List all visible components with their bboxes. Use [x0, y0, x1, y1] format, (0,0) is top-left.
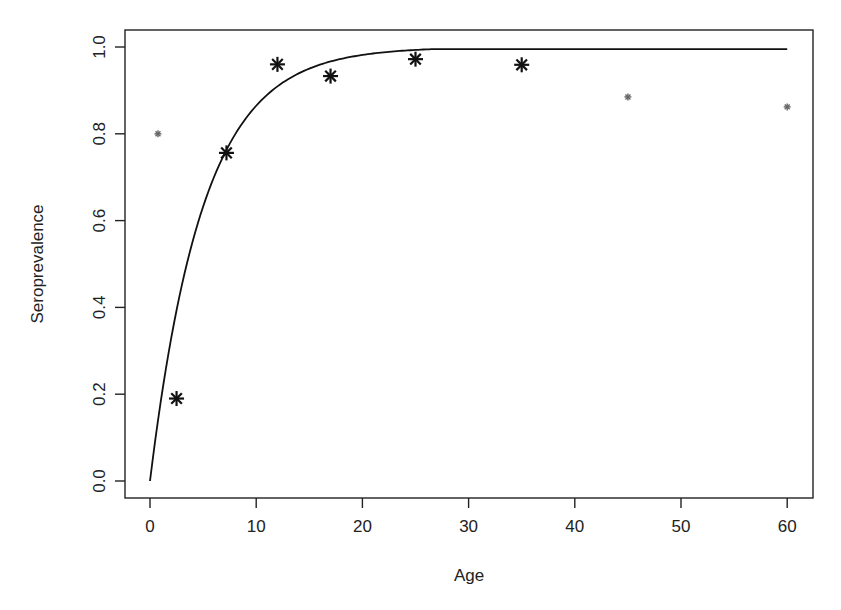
x-tick-label: 10	[247, 517, 266, 536]
y-tick-label: 0.2	[90, 382, 109, 406]
x-tick-label: 50	[672, 517, 691, 536]
asterisk-marker	[408, 52, 423, 67]
plot-border	[125, 30, 813, 498]
asterisk-marker	[169, 391, 184, 406]
seroprevalence-chart: 0102030405060 0.00.20.40.60.81.0 Age Ser…	[0, 0, 841, 610]
plot-frame	[125, 30, 813, 498]
x-tick-label: 40	[565, 517, 584, 536]
data-points	[154, 52, 790, 406]
y-tick-label: 0.6	[90, 209, 109, 233]
asterisk-marker	[154, 130, 161, 137]
y-tick-label: 1.0	[90, 35, 109, 59]
x-tick-label: 30	[459, 517, 478, 536]
asterisk-marker	[323, 69, 338, 84]
asterisk-marker	[624, 93, 631, 100]
asterisk-marker	[270, 57, 285, 72]
asterisk-marker	[514, 57, 529, 72]
y-axis-title: Seroprevalence	[28, 204, 47, 323]
x-tick-label: 0	[145, 517, 154, 536]
y-tick-label: 0.4	[90, 296, 109, 320]
asterisk-marker	[219, 145, 234, 160]
fitted-curve	[150, 49, 787, 481]
x-axis: 0102030405060	[145, 498, 796, 536]
asterisk-marker	[784, 103, 791, 110]
y-tick-label: 0.8	[90, 122, 109, 146]
x-tick-label: 60	[778, 517, 797, 536]
y-tick-label: 0.0	[90, 469, 109, 493]
y-axis: 0.00.20.40.60.81.0	[90, 35, 125, 493]
x-axis-title: Age	[454, 566, 484, 585]
fitted-curve-line	[150, 49, 787, 481]
x-tick-label: 20	[353, 517, 372, 536]
